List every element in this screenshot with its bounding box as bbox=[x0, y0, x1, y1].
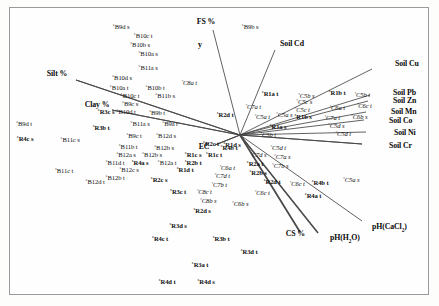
sample-point-label: ˚B12c s bbox=[119, 167, 139, 174]
sample-point-label: ˚B10d s bbox=[112, 75, 132, 82]
sample-point-label: ˚B12b s bbox=[142, 152, 162, 159]
sample-point-label: ˚R2a t bbox=[247, 161, 264, 168]
sample-point-label: ˚R2d s bbox=[193, 208, 211, 215]
sample-point-label: ˚R1d s bbox=[223, 142, 241, 149]
sample-point-label: ˚C5b t bbox=[354, 92, 370, 99]
sample-point-label: ˚B9c t bbox=[126, 133, 142, 140]
env-label-soil-co: Soil Co bbox=[389, 117, 412, 125]
sample-point-label: ˚R1a t bbox=[262, 91, 279, 98]
sample-point-label: ˚R4d t bbox=[158, 279, 175, 286]
sample-point-label: ˚R3b t bbox=[212, 236, 229, 243]
sample-point-label: ˚B11b s bbox=[155, 93, 175, 100]
sample-point-label: ˚R4a t bbox=[305, 193, 322, 200]
sample-point-label: ˚B12d s bbox=[156, 133, 176, 140]
env-label-fs: FS % bbox=[197, 18, 215, 26]
sample-point-label: ˚B9a t bbox=[162, 121, 178, 128]
sample-point-label: ˚B10c t bbox=[121, 93, 140, 100]
figure-canvas: FS %Soil CdSoil CuSoil PbSoil ZnSoil MnS… bbox=[0, 0, 439, 306]
sample-point-label: ˚R2c t bbox=[203, 141, 219, 148]
sample-point-label: ˚B10b s bbox=[130, 42, 150, 49]
sample-point-label: ˚C6b s bbox=[232, 201, 249, 208]
sample-point-label: ˚C6b s bbox=[351, 114, 368, 121]
y-axis-label: y bbox=[198, 40, 202, 49]
sample-point-label: ˚B10a t bbox=[110, 85, 129, 92]
sample-point-label: ˚R4b t bbox=[311, 180, 328, 187]
env-label-silt: Silt % bbox=[47, 70, 67, 78]
sample-point-label: ˚R1b t bbox=[328, 90, 345, 97]
sample-point-label: ˚C7d t bbox=[214, 173, 230, 180]
sample-point-label: ˚R3d s bbox=[169, 223, 187, 230]
sample-point-label: ˚R1c s bbox=[185, 152, 202, 159]
sample-point-label: ˚C7d s bbox=[250, 152, 267, 159]
sample-point-label: ˚C5a s bbox=[276, 112, 293, 119]
env-label-cs: CS % bbox=[286, 230, 305, 238]
sample-point-label: ˚C6c t bbox=[254, 190, 270, 197]
env-label-soil-cd: Soil Cd bbox=[280, 40, 304, 48]
sample-point-label: ˚C5d t bbox=[335, 131, 351, 138]
sample-point-label: ˚B11a s bbox=[138, 65, 157, 72]
sample-point-label: ˚R3a t bbox=[192, 262, 209, 269]
sample-point-label: ˚C7b t bbox=[211, 182, 227, 189]
sample-point-label: ˚C7a s bbox=[274, 154, 291, 161]
sample-point-label: ˚C5a s bbox=[343, 177, 360, 184]
sample-point-label: ˚C8c t bbox=[196, 189, 212, 196]
sample-point-label: ˚B12d t bbox=[85, 179, 104, 186]
sample-point-label: ˚C5d s bbox=[328, 123, 345, 130]
env-label-soil-ni: Soil Ni bbox=[394, 129, 416, 137]
sample-point-label: ˚R4c t bbox=[152, 236, 168, 243]
sample-point-label: ˚B10a s bbox=[138, 51, 158, 58]
sample-point-label: ˚C5a t bbox=[254, 114, 270, 121]
sample-point-label: ˚C7a t bbox=[324, 115, 340, 122]
sample-point-label: ˚B10d t bbox=[116, 109, 135, 116]
sample-point-label: ˚R1c t bbox=[206, 152, 222, 159]
sample-point-label: ˚R2d t bbox=[216, 112, 233, 119]
sample-point-label: ˚B12a t bbox=[158, 160, 177, 167]
sample-point-label: ˚R4c s bbox=[17, 136, 34, 143]
sample-point-label: ˚B9c s bbox=[122, 101, 138, 108]
sample-point-label: ˚B10c t bbox=[134, 33, 153, 40]
sample-point-label: ˚R3c s bbox=[98, 109, 115, 116]
sample-point-label: ˚C7a t bbox=[245, 104, 261, 111]
sample-point-label: ˚R2c s bbox=[151, 177, 168, 184]
sample-point-label: ˚R2b s bbox=[249, 170, 267, 177]
sample-point-label: ˚B11b t bbox=[118, 144, 137, 151]
sample-point-label: ˚R1b s bbox=[294, 114, 312, 121]
sample-point-label: ˚R3c t bbox=[170, 189, 186, 196]
sample-point-label: ˚R3d t bbox=[240, 249, 257, 256]
sample-point-label: ˚B9b s bbox=[242, 24, 259, 31]
sample-point-label: ˚C5b t bbox=[260, 132, 276, 139]
sample-point-label: ˚B10b t bbox=[145, 85, 164, 92]
sample-point-label: ˚R2d t bbox=[263, 179, 280, 186]
sample-point-label: ˚R1d t bbox=[176, 167, 193, 174]
sample-point-label: ˚B12a s bbox=[116, 152, 136, 159]
sample-point-label: ˚B12b t bbox=[105, 175, 124, 182]
sample-point-label: ˚R4d s bbox=[197, 279, 215, 286]
sample-point-label: ˚B11c s bbox=[60, 137, 79, 144]
sample-point-label: ˚B9d s bbox=[113, 24, 130, 31]
env-label-soil-zn: Soil Zn bbox=[393, 97, 416, 105]
sample-point-label: ˚R3b t bbox=[92, 125, 109, 132]
sample-point-label: ˚B11c t bbox=[55, 168, 74, 175]
sample-point-label: ˚C5c s bbox=[296, 99, 312, 106]
env-label-ph-h2o: pH(H2O) bbox=[330, 234, 360, 244]
sample-point-label: ˚C6a t bbox=[329, 105, 345, 112]
sample-point-label: ˚R1a s bbox=[269, 124, 286, 131]
sample-point-label: ˚C6a t bbox=[219, 165, 235, 172]
sample-point-label: ˚C8b s bbox=[200, 198, 217, 205]
sample-point-label: ˚C8a t bbox=[181, 80, 197, 87]
env-label-soil-cr: Soil Cr bbox=[389, 142, 412, 150]
env-label-soil-mn: Soil Mn bbox=[391, 108, 417, 116]
sample-point-label: ˚B9b t bbox=[149, 110, 165, 117]
sample-point-label: ˚C7b s bbox=[272, 163, 289, 170]
sample-point-label: ˚B9d t bbox=[16, 121, 32, 128]
sample-point-label: ˚C6c t bbox=[356, 103, 372, 110]
env-label-ph-cacl2: pH(CaCl2) bbox=[372, 223, 407, 233]
env-label-soil-cu: Soil Cu bbox=[395, 60, 419, 68]
sample-point-label: ˚C5d t bbox=[270, 145, 286, 152]
sample-point-label: ˚C6c t bbox=[289, 181, 305, 188]
sample-point-label: ˚B11a s bbox=[130, 121, 149, 128]
